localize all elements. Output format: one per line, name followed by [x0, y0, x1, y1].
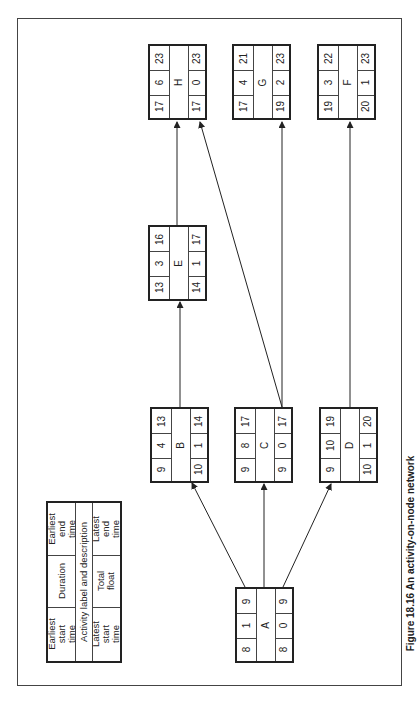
- duration: 1: [241, 623, 252, 629]
- legend-duration: Duration: [57, 563, 67, 599]
- activity-node-e: 16313 E 17114: [148, 225, 207, 301]
- latest-end: 9: [279, 598, 290, 604]
- activity-label: B: [175, 442, 186, 449]
- earliest-end: 16: [154, 233, 165, 244]
- activity-node-f: 22319 F 23120: [317, 44, 376, 120]
- arrow-a-to-b: [192, 483, 245, 587]
- total-float: 0: [279, 623, 290, 629]
- activity-node-a: 918 A 908: [235, 587, 294, 663]
- duration: 4: [156, 443, 167, 449]
- latest-start: 19: [276, 101, 287, 112]
- legend-earliest-start: Earliest start time: [47, 618, 77, 650]
- total-float: 1: [192, 261, 203, 267]
- duration: 8: [240, 443, 251, 449]
- earliest-end: 22: [323, 52, 334, 63]
- activity-node-h: 23617 H 23017: [148, 44, 207, 120]
- arrow-c-to-h: [200, 122, 282, 407]
- node-legend: Earliest end time Duration Earliest star…: [46, 501, 122, 663]
- figure-title: An activity-on-node network: [406, 456, 417, 590]
- earliest-end: 13: [156, 415, 167, 426]
- legend-latest-end: Latest end time: [91, 515, 121, 543]
- latest-start: 20: [361, 101, 372, 112]
- total-float: 0: [192, 80, 203, 86]
- duration: 6: [154, 80, 165, 86]
- latest-end: 23: [192, 52, 203, 63]
- total-float: 1: [361, 80, 372, 86]
- duration: 10: [325, 440, 336, 451]
- latest-end: 20: [363, 415, 374, 426]
- latest-end: 17: [192, 233, 203, 244]
- activity-node-b: 1349 B 14110: [150, 407, 209, 483]
- total-float: 0: [278, 443, 289, 449]
- activity-node-g: 21417 G 23219: [232, 44, 291, 120]
- earliest-start: 17: [154, 101, 165, 112]
- earliest-end: 9: [241, 598, 252, 604]
- legend-total-float: Total float: [96, 567, 116, 595]
- activity-label: A: [260, 622, 271, 629]
- latest-start: 10: [194, 464, 205, 475]
- latest-end: 23: [276, 52, 287, 63]
- activity-label: D: [344, 441, 355, 448]
- earliest-start: 8: [241, 647, 252, 653]
- earliest-end: 21: [238, 52, 249, 63]
- latest-start: 14: [192, 282, 203, 293]
- earliest-start: 9: [240, 467, 251, 473]
- duration: 4: [238, 80, 249, 86]
- activity-label: E: [173, 260, 184, 267]
- latest-start: 17: [192, 101, 203, 112]
- arrow-a-to-d: [283, 484, 331, 587]
- earliest-end: 23: [154, 52, 165, 63]
- earliest-end: 17: [240, 415, 251, 426]
- latest-end: 17: [278, 415, 289, 426]
- latest-end: 14: [194, 415, 205, 426]
- earliest-start: 9: [156, 467, 167, 473]
- earliest-start: 17: [238, 101, 249, 112]
- figure-caption: Figure 18.16 An activity-on-node network: [404, 402, 418, 705]
- earliest-end: 19: [325, 415, 336, 426]
- earliest-start: 19: [323, 101, 334, 112]
- total-float: 2: [276, 80, 287, 86]
- activity-node-c: 1789 C 1709: [234, 407, 293, 483]
- duration: 3: [323, 80, 334, 86]
- activity-label: C: [259, 441, 270, 448]
- legend-latest-start: Latest start time: [91, 620, 121, 648]
- activity-label: F: [342, 79, 353, 85]
- legend-label-description: Activity label and description: [79, 522, 89, 642]
- legend-earliest-end: Earliest end time: [47, 513, 77, 545]
- figure-number: Figure 18.16: [406, 593, 417, 651]
- total-float: 1: [363, 443, 374, 449]
- duration: 3: [154, 261, 165, 267]
- activity-label: G: [257, 78, 268, 86]
- latest-end: 23: [361, 52, 372, 63]
- total-float: 1: [194, 443, 205, 449]
- activity-node-d: 19109 D 20110: [319, 407, 378, 483]
- earliest-start: 13: [154, 282, 165, 293]
- latest-start: 8: [279, 647, 290, 653]
- earliest-start: 9: [325, 467, 336, 473]
- latest-start: 9: [278, 467, 289, 473]
- activity-label: H: [173, 78, 184, 85]
- latest-start: 10: [363, 464, 374, 475]
